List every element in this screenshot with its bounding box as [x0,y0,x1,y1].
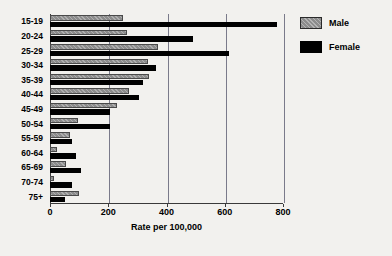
bar-male-60-64 [50,147,57,152]
bar-female-25-29 [50,51,229,56]
bar-female-40-44 [50,95,139,100]
bar-group-70-74 [50,175,283,190]
y-axis-label-30-34: 30-34 [21,60,43,70]
bar-group-20-24 [50,29,283,44]
bar-group-60-64 [50,146,283,161]
bar-male-55-59 [50,132,70,137]
legend-label-female: Female [329,42,360,52]
y-axis-label-75+: 75+ [29,192,43,202]
bar-female-70-74 [50,182,72,187]
y-axis-label-70-74: 70-74 [21,177,43,187]
y-axis-label-55-59: 55-59 [21,133,43,143]
y-axis-label-45-49: 45-49 [21,104,43,114]
bar-group-75+ [50,190,283,205]
bar-group-25-29 [50,44,283,59]
x-tick-label-400: 400 [159,207,174,217]
gridline-800 [284,14,285,203]
bar-female-45-49 [50,109,110,114]
bar-male-70-74 [50,176,54,181]
bar-female-20-24 [50,36,193,41]
bar-male-50-54 [50,118,78,123]
bar-female-30-34 [50,65,156,70]
legend-item-male: Male [300,16,360,29]
x-tick-label-800: 800 [275,207,290,217]
bar-group-50-54 [50,117,283,132]
y-axis-category-labels: 15-1920-2425-2930-3435-3940-4445-4950-54… [0,14,47,204]
x-axis-ticks: 0200400600800 [50,204,283,218]
x-tick-label-200: 200 [101,207,116,217]
y-axis-label-65-69: 65-69 [21,162,43,172]
bar-male-30-34 [50,59,148,64]
bar-male-75+ [50,191,79,196]
bar-female-50-54 [50,124,110,129]
bar-group-35-39 [50,73,283,88]
legend-swatch-female [300,41,322,53]
bar-group-40-44 [50,88,283,103]
y-axis-label-15-19: 15-19 [21,16,43,26]
legend-swatch-male [300,17,322,29]
bar-group-15-19 [50,15,283,30]
bar-female-75+ [50,197,65,202]
bar-male-20-24 [50,30,127,35]
x-tick-label-0: 0 [47,207,52,217]
y-axis-label-40-44: 40-44 [21,89,43,99]
bar-male-65-69 [50,161,66,166]
bar-female-15-19 [50,22,277,27]
y-axis-label-20-24: 20-24 [21,31,43,41]
bar-female-35-39 [50,80,143,85]
legend-label-male: Male [329,18,349,28]
bar-group-30-34 [50,58,283,73]
y-axis-label-60-64: 60-64 [21,148,43,158]
bar-male-15-19 [50,15,123,20]
legend-item-female: Female [300,40,360,53]
x-tick-label-600: 600 [217,207,232,217]
bar-male-40-44 [50,88,129,93]
x-axis-title: Rate per 100,000 [50,222,283,232]
chart-legend: Male Female [300,16,360,64]
bar-male-25-29 [50,44,158,49]
bar-male-35-39 [50,74,149,79]
bar-female-60-64 [50,153,76,158]
bar-group-65-69 [50,161,283,176]
y-axis-label-50-54: 50-54 [21,119,43,129]
bar-chart: 15-1920-2425-2930-3435-3940-4445-4950-54… [0,0,392,256]
bar-female-65-69 [50,168,81,173]
bar-male-45-49 [50,103,117,108]
bar-female-55-59 [50,139,72,144]
bar-rows [50,14,283,204]
bar-group-55-59 [50,132,283,147]
y-axis-label-35-39: 35-39 [21,75,43,85]
y-axis-label-25-29: 25-29 [21,46,43,56]
bar-group-45-49 [50,102,283,117]
